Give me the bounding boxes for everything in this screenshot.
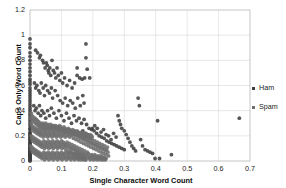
- x-tick-label: 0.3: [112, 165, 136, 172]
- scatter-chart: 00.20.40.60.811.2 00.10.20.30.40.50.60.7…: [0, 0, 286, 188]
- x-axis-title: Single Character Word Count: [30, 176, 252, 185]
- y-tick-label: 0: [5, 157, 25, 164]
- x-tick-label: 0.5: [175, 165, 199, 172]
- data-points: [28, 37, 241, 163]
- x-tick-label: 0.7: [238, 165, 262, 172]
- x-tick-label: 0: [18, 165, 42, 172]
- legend-label: Ham: [259, 84, 274, 91]
- x-tick-label: 0.1: [49, 165, 73, 172]
- x-tick-label: 0.2: [81, 165, 105, 172]
- legend-marker-icon: [252, 87, 255, 90]
- y-tick-label: 1.2: [5, 6, 25, 13]
- legend-marker-icon: [252, 106, 255, 109]
- plot-canvas: [0, 0, 286, 188]
- legend-item-spam[interactable]: Spam: [252, 101, 286, 113]
- legend-label: Spam: [259, 103, 278, 110]
- legend-item-ham[interactable]: Ham: [252, 82, 286, 94]
- x-tick-label: 0.4: [144, 165, 168, 172]
- x-tick-label: 0.6: [207, 165, 231, 172]
- y-axis-title: Caps Only Word Count: [14, 30, 23, 140]
- chart-legend: HamSpam: [252, 82, 286, 120]
